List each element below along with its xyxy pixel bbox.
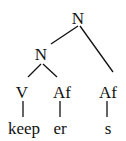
node-affix-er: Af [53, 83, 71, 102]
edge-inner-verb [28, 64, 41, 77]
node-verb: V [16, 83, 29, 102]
word-s: s [105, 119, 112, 138]
word-keep: keep [8, 119, 40, 138]
morphology-tree-diagram: N N V Af Af keep er s [0, 0, 126, 141]
word-er: er [53, 119, 67, 138]
edge-root-affix2 [80, 26, 113, 72]
edge-inner-affix1 [43, 64, 57, 77]
edge-root-inner [51, 26, 78, 44]
node-root-n: N [72, 9, 84, 28]
node-inner-n: N [35, 45, 47, 64]
tree-edges [23, 26, 113, 117]
node-affix-s: Af [99, 83, 117, 102]
